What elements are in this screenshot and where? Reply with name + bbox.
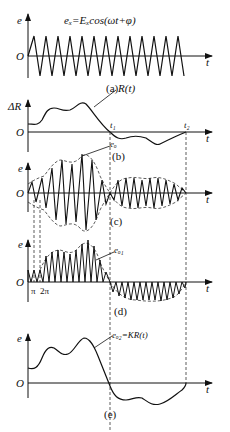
tick-pi: π bbox=[31, 286, 36, 296]
y-axis-label: e bbox=[18, 238, 23, 250]
eo1-label: eₒ₁ bbox=[114, 245, 124, 255]
t2-label: t₂ bbox=[184, 120, 190, 130]
leader-line bbox=[96, 252, 114, 260]
x-axis-label: t bbox=[206, 56, 210, 68]
caption-c: (c) bbox=[110, 215, 123, 228]
x-axis-label: t bbox=[206, 383, 210, 395]
r-curve-label: R(t) bbox=[117, 82, 135, 95]
caption-b: (b) bbox=[112, 150, 125, 163]
panel-d: e O t π 2π eₒ₁ (d) bbox=[16, 238, 212, 318]
origin-label: O bbox=[16, 187, 24, 199]
modulated-wave bbox=[28, 154, 186, 230]
origin-label: O bbox=[16, 50, 24, 62]
leader-line bbox=[82, 146, 110, 156]
x-axis-label: t bbox=[206, 193, 210, 205]
panel-a: e O t eₓ=Eₓcos(ωt+φ) (a) bbox=[16, 14, 212, 95]
caption-e: (e) bbox=[104, 408, 117, 421]
leader-line bbox=[94, 90, 116, 107]
y-axis-label: e bbox=[17, 14, 22, 26]
origin-label: O bbox=[16, 126, 24, 138]
y-axis-label: e bbox=[17, 332, 22, 344]
modulation-diagram: e O t eₓ=Eₓcos(ωt+φ) (a) ΔR O t R(t) t₁ … bbox=[0, 0, 230, 432]
eo2-label: eₒ₂=KR(t) bbox=[112, 330, 148, 340]
origin-label: O bbox=[16, 276, 24, 288]
origin-label: O bbox=[16, 377, 24, 389]
rectified-wave-negative bbox=[110, 282, 186, 301]
carrier-formula: eₓ=Eₓcos(ωt+φ) bbox=[64, 14, 136, 27]
caption-d: (d) bbox=[114, 305, 127, 318]
panel-e: e O t eₒ₂=KR(t) (e) bbox=[16, 330, 212, 421]
t1-label: t₁ bbox=[110, 120, 116, 130]
tick-2pi: 2π bbox=[40, 286, 50, 296]
lower-envelope bbox=[28, 193, 186, 231]
y-axis-label: ΔR bbox=[7, 100, 21, 112]
x-axis-label: t bbox=[206, 282, 210, 294]
x-axis-label: t bbox=[206, 132, 210, 144]
r-curve bbox=[28, 103, 186, 145]
upper-envelope bbox=[28, 155, 186, 193]
panel-b: ΔR O t R(t) t₁ t₂ (b) bbox=[7, 82, 212, 163]
demodulated-curve bbox=[28, 338, 186, 405]
leader-line bbox=[94, 336, 112, 348]
eo-label: eₒ bbox=[110, 139, 117, 149]
y-axis-label: e bbox=[18, 162, 23, 174]
